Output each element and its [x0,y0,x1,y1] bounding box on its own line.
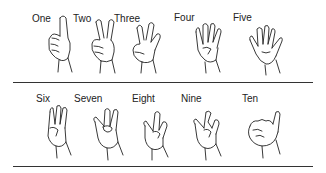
hand-one-icon [49,16,72,72]
hand-four-icon [196,23,221,73]
hand-nine-icon [194,111,221,160]
hand-seven-icon [94,109,123,160]
hand-ten-icon [249,111,281,158]
hand-gestures-illustration [0,0,326,173]
hand-six-icon [48,105,71,158]
hand-five-icon [250,25,283,75]
hand-eight-icon [144,112,168,160]
hand-three-icon [133,23,160,73]
hand-two-icon [92,20,115,73]
